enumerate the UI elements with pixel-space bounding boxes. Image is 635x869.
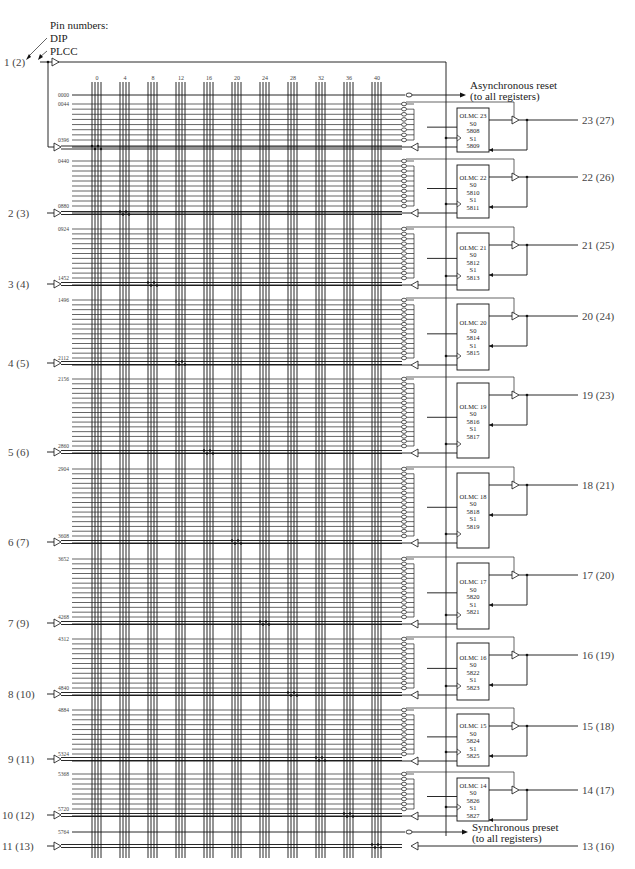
olmc-name: OLMC 16 [460, 654, 488, 661]
olmc-s1: S1 [470, 425, 477, 432]
olmc-block: 21562860OLMC 19S05816S1581719 (23) [58, 376, 614, 458]
row-fuse-first: 0924 [58, 226, 69, 232]
row-fuse-last: 5720 [58, 806, 69, 812]
output-pin-label: 21 (25) [582, 239, 614, 252]
olmc-s1: S1 [470, 601, 477, 608]
row-fuse-first: 1496 [58, 297, 69, 303]
row-fuse-last: 2860 [58, 443, 69, 449]
olmc-s1: S1 [470, 676, 477, 683]
olmc-s1-fuse: 5815 [467, 349, 480, 356]
column-label: 32 [318, 75, 324, 81]
olmc-s0-fuse: 5818 [467, 508, 480, 515]
legend-plcc: PLCC [50, 45, 78, 57]
asynchronous-reset: 0000 Asynchronous reset (to all register… [58, 79, 557, 103]
olmc-s1: S1 [470, 196, 477, 203]
olmc-s0: S0 [470, 500, 477, 507]
async-reset-sublabel: (to all registers) [470, 90, 540, 103]
olmc-name: OLMC 17 [460, 578, 488, 585]
olmc-s0: S0 [470, 789, 477, 796]
olmc-block: 14962112OLMC 20S05814S1581520 (24) [58, 297, 614, 370]
olmc-s0-fuse: 5822 [467, 669, 480, 676]
row-fuse-first: 0044 [58, 101, 69, 107]
row-fuse-first: 0440 [58, 158, 69, 164]
output-pin-label: 16 (19) [582, 649, 614, 662]
olmc-s1: S1 [470, 342, 477, 349]
olmc-s1-fuse: 5827 [467, 812, 481, 819]
olmc-s0-fuse: 5808 [467, 127, 480, 134]
olmc-blocks: 00440396OLMC 23S05808S1580923 (27)044008… [58, 101, 614, 822]
row-fuse-last: 2112 [58, 355, 69, 361]
column-label: 0 [96, 75, 99, 81]
olmc-name: OLMC 23 [460, 112, 487, 119]
row-fuse-last: 1452 [58, 275, 69, 281]
olmc-s0-fuse: 5824 [467, 737, 481, 744]
row-fuse-last: 4840 [58, 685, 69, 691]
input-pin-label: 8 (10) [8, 688, 35, 701]
column-label: 20 [234, 75, 240, 81]
olmc-s1-fuse: 5811 [467, 204, 480, 211]
input-pins: 1 (2)2 (3)3 (4)4 (5)5 (6)6 (7)7 (9)8 (10… [2, 56, 614, 853]
olmc-name: OLMC 15 [460, 722, 487, 729]
olmc-s0: S0 [470, 661, 477, 668]
input-pin-label: 1 (2) [4, 56, 25, 69]
olmc-s0: S0 [470, 251, 477, 258]
olmc-s1: S1 [470, 804, 477, 811]
input-pin: 11 (13) [2, 840, 402, 853]
column-label: 24 [262, 75, 268, 81]
column-label: 16 [206, 75, 212, 81]
column-label: 8 [152, 75, 155, 81]
input-pin-label: 9 (11) [8, 753, 35, 766]
input-pin-label: 10 (12) [2, 809, 34, 822]
input-pin-label: 7 (9) [8, 617, 29, 630]
output-pin-label: 22 (26) [582, 171, 614, 184]
synchronous-preset: 5764 Synchronous preset (to all register… [58, 821, 558, 845]
olmc-s0: S0 [470, 730, 477, 737]
sync-preset-sublabel: (to all registers) [472, 832, 542, 845]
row-fuse-last: 4268 [58, 614, 69, 620]
olmc-s1-fuse: 5825 [467, 752, 480, 759]
input-pin-label: 3 (4) [8, 278, 29, 291]
olmc-s1: S1 [470, 266, 477, 273]
row-fuse-first: 2904 [58, 466, 69, 472]
olmc-s0-fuse: 5820 [467, 593, 480, 600]
olmc-name: OLMC 21 [460, 244, 487, 251]
output-pin-label: 18 (21) [582, 479, 614, 492]
and-array-grid: 0481216202428323640 [92, 75, 381, 858]
column-label: 40 [374, 75, 380, 81]
olmc-s1: S1 [470, 135, 477, 142]
olmc-s1-fuse: 5821 [467, 608, 480, 615]
olmc-s0-fuse: 5826 [467, 797, 481, 804]
output-pin-label: 17 (20) [582, 569, 614, 582]
row-fuse-first: 4884 [58, 707, 69, 713]
output-pin-label: 19 (23) [582, 389, 614, 402]
olmc-s0-fuse: 5810 [467, 189, 480, 196]
olmc-block: 53685720OLMC 14S05826S1582714 (17) [58, 771, 614, 822]
row-fuse-last: 0880 [58, 203, 69, 209]
column-label: 28 [290, 75, 296, 81]
output-pin-label: 15 (18) [582, 720, 614, 733]
olmc-s0-fuse: 5816 [467, 418, 481, 425]
output-pin-label: 14 (17) [582, 784, 614, 797]
legend-dip: DIP [50, 32, 68, 44]
column-label: 36 [346, 75, 352, 81]
olmc-s0: S0 [470, 120, 477, 127]
bottom-pin-label: 13 (16) [582, 840, 614, 853]
input-pin-label: 2 (3) [8, 207, 29, 220]
olmc-s1: S1 [470, 745, 477, 752]
column-label: 12 [178, 75, 184, 81]
olmc-s1-fuse: 5817 [467, 433, 481, 440]
olmc-block: 00440396OLMC 23S05808S1580923 (27) [58, 101, 614, 152]
olmc-s0: S0 [470, 181, 477, 188]
output-pin-label: 23 (27) [582, 114, 614, 127]
olmc-s1-fuse: 5809 [467, 142, 480, 149]
input-pin-label: 6 (7) [8, 536, 29, 549]
olmc-s0-fuse: 5812 [467, 259, 480, 266]
olmc-name: OLMC 18 [460, 493, 487, 500]
olmc-name: OLMC 20 [460, 319, 487, 326]
gal22v10-logic-diagram: Pin numbers: DIP PLCC 048121620242832364… [0, 0, 635, 869]
legend-title: Pin numbers: [50, 19, 108, 31]
olmc-name: OLMC 22 [460, 174, 487, 181]
olmc-s1-fuse: 5813 [467, 274, 480, 281]
input-pin-label: 11 (13) [2, 840, 34, 853]
olmc-s0: S0 [470, 410, 477, 417]
